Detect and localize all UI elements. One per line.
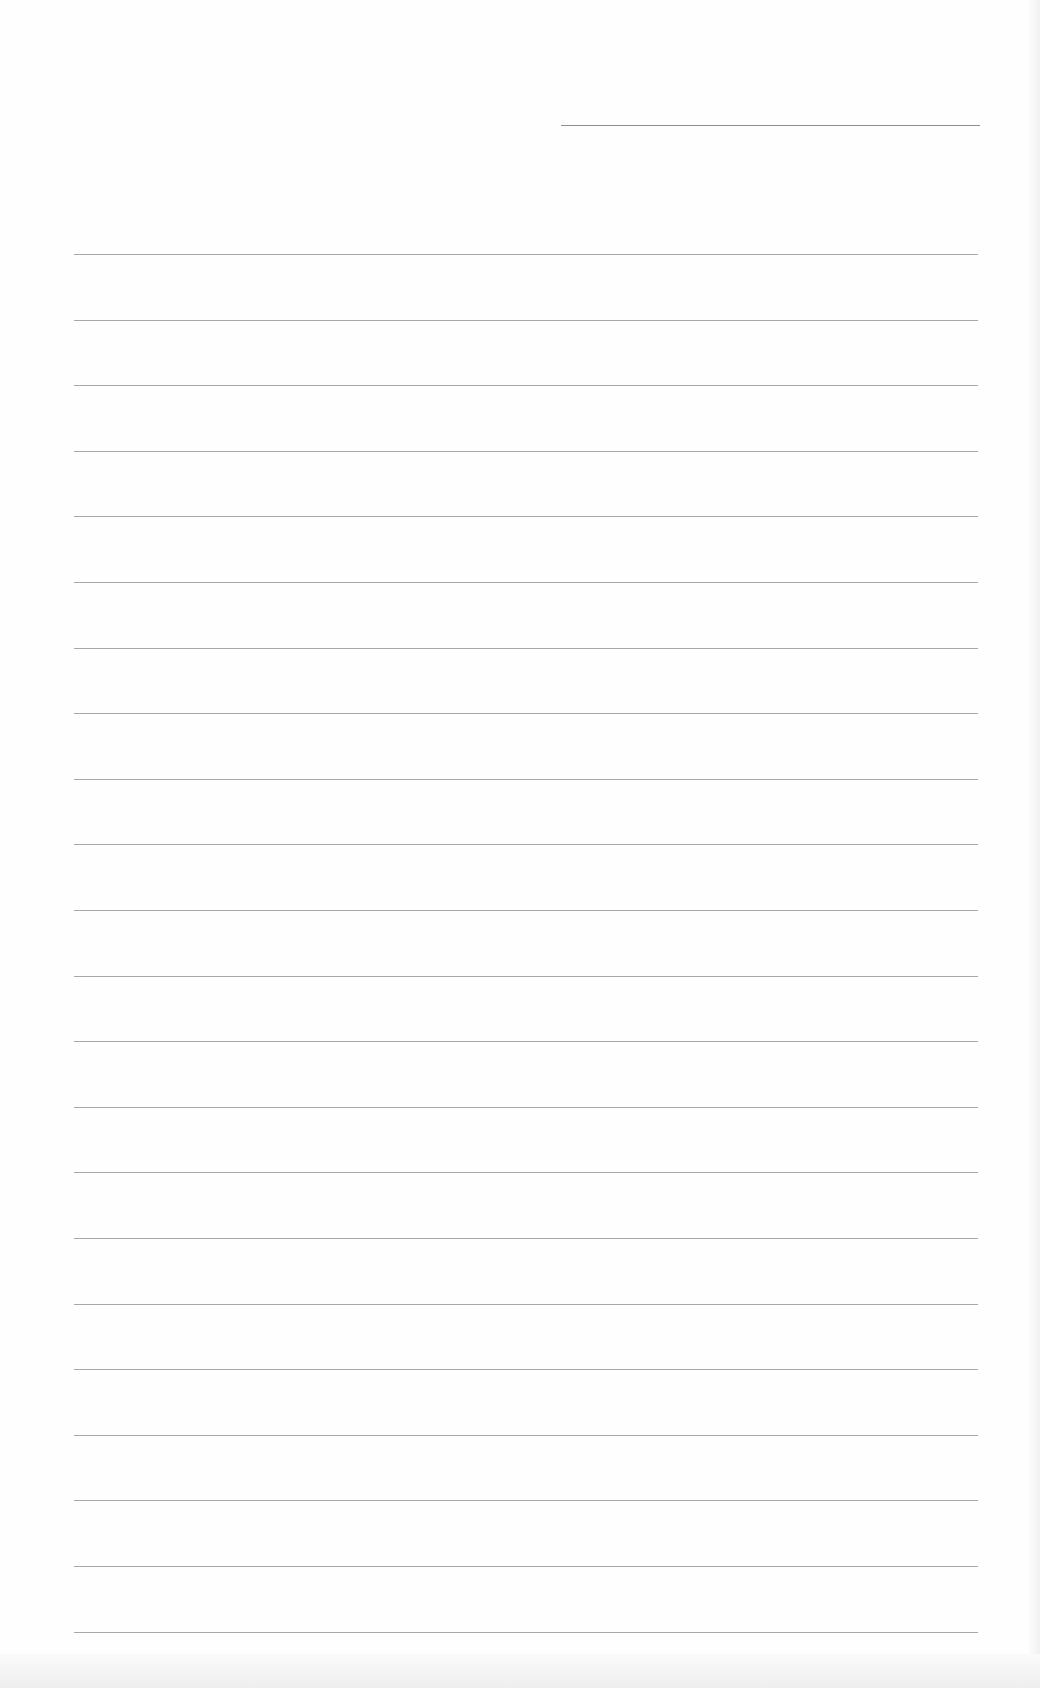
lined-sheet: [0, 0, 1040, 1688]
ruled-line: [74, 385, 978, 386]
ruled-line: [74, 1238, 978, 1239]
ruled-line: [74, 910, 978, 911]
ruled-line: [74, 1172, 978, 1173]
ruled-line: [74, 1369, 978, 1370]
ruled-line: [74, 844, 978, 845]
ruled-line: [74, 254, 978, 255]
ruled-line: [74, 451, 978, 452]
ruled-line: [74, 1500, 978, 1501]
ruled-line: [74, 779, 978, 780]
page-bottom-band: [0, 1654, 1040, 1688]
ruled-line: [74, 1041, 978, 1042]
ruled-line: [74, 582, 978, 583]
ruled-line: [74, 1632, 978, 1633]
ruled-line: [74, 320, 978, 321]
ruled-line: [74, 713, 978, 714]
ruled-line: [74, 1566, 978, 1567]
ruled-line: [74, 648, 978, 649]
ruled-lines: [0, 0, 1040, 1688]
page-edge-shadow: [1026, 0, 1040, 1688]
ruled-line: [74, 1107, 978, 1108]
ruled-line: [74, 1304, 978, 1305]
ruled-line: [74, 976, 978, 977]
ruled-line: [74, 516, 978, 517]
ruled-line: [74, 1435, 978, 1436]
